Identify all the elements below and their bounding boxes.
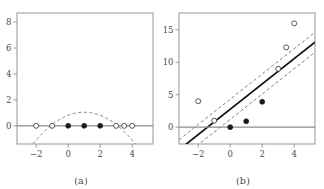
y-tick-label: 10: [163, 57, 174, 67]
data-point-open: [50, 123, 55, 128]
fitted-parabola: [17, 112, 153, 169]
y-tick-label: 4: [6, 69, 11, 79]
panel-a: 02468−2024 (a): [0, 0, 162, 189]
data-point-filled: [228, 125, 233, 130]
figure-container: 02468−2024 (a) 051015−2024 (b): [0, 0, 324, 189]
data-point-open: [114, 123, 119, 128]
x-tick-label: −2: [30, 149, 43, 159]
data-point-open: [130, 123, 135, 128]
plot-frame: [179, 13, 315, 144]
x-tick-label: 4: [129, 149, 134, 159]
data-point-filled: [244, 119, 249, 124]
panel-b-caption: (b): [162, 175, 324, 186]
series-group: [17, 112, 153, 169]
data-point-filled: [98, 123, 103, 128]
panel-b-plot: 051015−2024: [162, 0, 324, 189]
x-tick-label: 2: [259, 149, 264, 159]
panel-b: 051015−2024 (b): [162, 0, 324, 189]
data-point-open: [212, 118, 217, 123]
series-group: [179, 21, 315, 160]
x-tick-label: 2: [97, 149, 102, 159]
y-tick-label: 15: [163, 25, 174, 35]
x-tick-label: −2: [192, 149, 205, 159]
data-point-filled: [82, 123, 87, 128]
panel-a-caption: (a): [0, 175, 162, 186]
data-point-open: [292, 21, 297, 26]
data-point-filled: [260, 99, 265, 104]
data-point-open: [122, 123, 127, 128]
x-tick-label: 0: [65, 149, 70, 159]
data-point-open: [276, 66, 281, 71]
data-point-open: [196, 99, 201, 104]
x-tick-label: 4: [291, 149, 296, 159]
data-point-open: [34, 123, 39, 128]
y-tick-label: 0: [168, 122, 173, 132]
y-tick-label: 6: [6, 43, 11, 53]
y-tick-label: 0: [6, 121, 11, 131]
regression-line: [179, 42, 315, 149]
data-point-open: [284, 45, 289, 50]
data-point-filled: [66, 123, 71, 128]
y-tick-label: 8: [6, 17, 11, 27]
x-tick-label: 0: [227, 149, 232, 159]
panel-a-plot: 02468−2024: [0, 0, 162, 189]
y-tick-label: 2: [6, 95, 11, 105]
y-tick-label: 5: [168, 90, 173, 100]
